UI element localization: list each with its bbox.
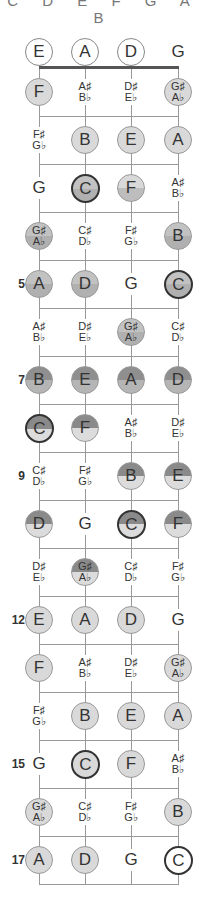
note-marker: E bbox=[71, 366, 99, 394]
fret-line-14 bbox=[39, 740, 179, 741]
fret-line-17 bbox=[39, 884, 179, 885]
note-name-flat: A♭ bbox=[33, 236, 45, 247]
note-marker: B bbox=[25, 366, 53, 394]
note-marker: G♯A♭ bbox=[25, 798, 53, 826]
fret-line-16 bbox=[39, 836, 179, 837]
note-name-flat: A♭ bbox=[172, 92, 184, 103]
note-label: F♯G♭ bbox=[170, 559, 186, 585]
note-marker: G♯A♭ bbox=[117, 318, 145, 346]
note-label: G bbox=[124, 849, 137, 871]
note-name-flat: A♭ bbox=[79, 572, 91, 583]
note-name-flat: G♭ bbox=[124, 236, 138, 247]
note-name-flat: D♭ bbox=[78, 236, 91, 247]
fret-line-11 bbox=[39, 596, 179, 597]
fret-line-8 bbox=[39, 452, 179, 453]
note-marker: B bbox=[164, 222, 192, 250]
note-name-flat: D♭ bbox=[78, 812, 91, 823]
note-name-flat: B♭ bbox=[172, 764, 185, 775]
note-marker: F bbox=[25, 78, 53, 106]
note-name-flat: G♭ bbox=[78, 476, 92, 487]
note-marker: B bbox=[164, 798, 192, 826]
note-marker: C bbox=[25, 414, 54, 443]
note-name-flat: E♭ bbox=[78, 332, 91, 343]
note-label: F♯G♭ bbox=[123, 799, 139, 825]
note-name-flat: E♭ bbox=[171, 428, 184, 439]
fret-number: 12 bbox=[12, 613, 25, 627]
note-name-flat: G♭ bbox=[124, 812, 138, 823]
note-marker: F bbox=[71, 414, 99, 442]
note-name-flat: D♭ bbox=[171, 332, 184, 343]
note-label: F♯G♭ bbox=[123, 223, 139, 249]
note-label: A♯B♭ bbox=[124, 415, 139, 441]
note-label: A♯B♭ bbox=[78, 655, 93, 681]
note-marker: D bbox=[164, 366, 192, 394]
note-label: A♯B♭ bbox=[78, 79, 93, 105]
note-name-flat: A♭ bbox=[172, 668, 184, 679]
note-name-flat: D♭ bbox=[124, 572, 137, 583]
note-marker: D bbox=[25, 510, 53, 538]
note-marker: E bbox=[117, 702, 145, 730]
note-label: C♯D♭ bbox=[77, 799, 92, 825]
fret-line-12 bbox=[39, 644, 179, 645]
note-marker: A bbox=[117, 366, 145, 394]
note-marker: C bbox=[117, 510, 146, 539]
note-marker: F bbox=[25, 654, 53, 682]
note-marker: A bbox=[25, 846, 53, 874]
note-label: A♯B♭ bbox=[32, 319, 47, 345]
fret-line-7 bbox=[39, 404, 179, 405]
note-marker: C bbox=[71, 174, 100, 203]
note-marker: G♯A♭ bbox=[25, 222, 53, 250]
note-label: G bbox=[32, 177, 45, 199]
note-label: G bbox=[78, 513, 91, 535]
note-name-flat: B♭ bbox=[79, 92, 92, 103]
fret-line-6 bbox=[39, 356, 179, 357]
note-label: C♯D♭ bbox=[123, 559, 138, 585]
note-label: A♯B♭ bbox=[171, 175, 186, 201]
note-label: C♯D♭ bbox=[31, 463, 46, 489]
note-marker: G♯A♭ bbox=[164, 78, 192, 106]
fretboard-diagram: EADGFA♯B♭D♯E♭G♯A♭F♯G♭BEAGCFA♯B♭G♯A♭C♯D♭F… bbox=[0, 0, 207, 906]
note-marker: D bbox=[71, 846, 99, 874]
note-name-flat: G♭ bbox=[32, 716, 46, 727]
note-marker: A bbox=[164, 702, 192, 730]
note-label: D♯E♭ bbox=[123, 79, 138, 105]
note-marker: E bbox=[25, 38, 53, 66]
note-label: A♯B♭ bbox=[171, 751, 186, 777]
note-label: F♯G♭ bbox=[31, 703, 47, 729]
note-name-flat: D♭ bbox=[32, 476, 45, 487]
note-label: F♯G♭ bbox=[77, 463, 93, 489]
note-marker: A bbox=[164, 126, 192, 154]
note-label: G bbox=[124, 273, 137, 295]
note-marker: B bbox=[71, 126, 99, 154]
note-marker: A bbox=[71, 38, 99, 66]
note-marker: B bbox=[117, 462, 145, 490]
note-marker: F bbox=[164, 510, 192, 538]
note-name-flat: E♭ bbox=[32, 572, 45, 583]
note-name-flat: A♭ bbox=[33, 812, 45, 823]
note-marker: B bbox=[71, 702, 99, 730]
note-label: D♯E♭ bbox=[123, 655, 138, 681]
note-marker: C bbox=[164, 270, 193, 299]
fret-line-2 bbox=[39, 164, 179, 165]
fret-number: 15 bbox=[12, 757, 25, 771]
fret-line-5 bbox=[39, 308, 179, 309]
note-label: C♯D♭ bbox=[77, 223, 92, 249]
note-name-flat: E♭ bbox=[124, 668, 137, 679]
note-marker: A bbox=[71, 606, 99, 634]
fret-line-1 bbox=[39, 116, 179, 117]
note-marker: G♯A♭ bbox=[164, 654, 192, 682]
fret-line-3 bbox=[39, 212, 179, 213]
note-name-flat: B♭ bbox=[79, 668, 92, 679]
note-marker: D bbox=[117, 38, 145, 66]
fret-line-13 bbox=[39, 692, 179, 693]
note-label: D♯E♭ bbox=[31, 559, 46, 585]
note-marker: D bbox=[117, 606, 145, 634]
note-label: D♯E♭ bbox=[170, 415, 185, 441]
note-marker: C bbox=[71, 750, 100, 779]
fret-line-10 bbox=[39, 548, 179, 549]
note-name-flat: A♭ bbox=[125, 332, 137, 343]
note-marker: F bbox=[117, 750, 145, 778]
note-marker: E bbox=[164, 462, 192, 490]
note-label: F♯G♭ bbox=[31, 127, 47, 153]
note-name-flat: B♭ bbox=[33, 332, 46, 343]
